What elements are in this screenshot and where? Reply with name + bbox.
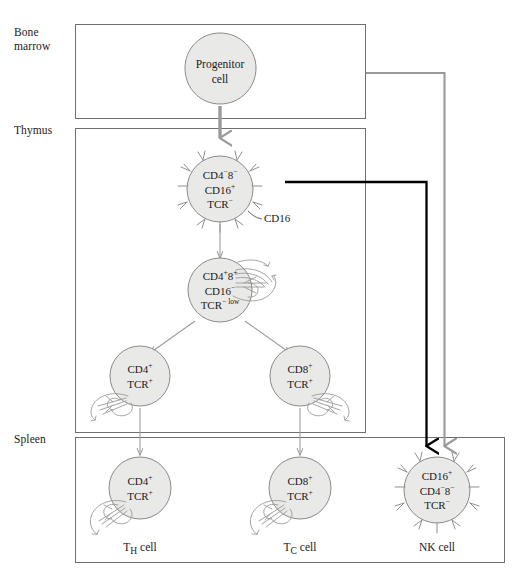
cd16-leader-line: [248, 211, 262, 219]
annotation-cd16: CD16: [264, 212, 290, 224]
cell-thymus-cd8-sp: [270, 346, 349, 421]
cell-thymus-double-positive: [188, 258, 276, 322]
figure-root: Bone marrow Thymus Spleen Progenitor cel…: [0, 0, 526, 587]
caption-th-tail: cell: [137, 541, 156, 553]
cell-spleen-th: [90, 457, 171, 534]
caption-tc-tail: cell: [297, 541, 316, 553]
arrow-dn-to-nk: [285, 182, 427, 446]
caption-tc-letter: T: [284, 541, 291, 553]
compartment-label-thymus: Thymus: [14, 124, 52, 138]
diagram-canvas: [0, 0, 526, 587]
arrow-marrow-to-nk: [366, 73, 445, 446]
tcr-receptor-cd4-sp: [91, 394, 132, 421]
caption-nk-cell: NK cell: [392, 541, 482, 553]
arrow-dp-to-cd8: [245, 321, 290, 353]
cell-spleen-tc: [250, 457, 331, 534]
cell-label-progenitor: Progenitor cell: [170, 57, 270, 87]
cell-thymus-cd4-sp: [91, 346, 170, 421]
caption-th-cell: TH cell: [95, 541, 185, 556]
arrow-dp-to-cd4: [150, 321, 195, 353]
compartment-label-spleen: Spleen: [14, 433, 46, 447]
compartment-label-bone-marrow: Bone marrow: [14, 26, 50, 53]
tcr-receptor-cd8-sp: [308, 394, 349, 421]
cell-spleen-nk: [395, 452, 479, 533]
cell-thymus-double-negative: [178, 151, 262, 232]
caption-tc-cell: TC cell: [255, 541, 345, 556]
